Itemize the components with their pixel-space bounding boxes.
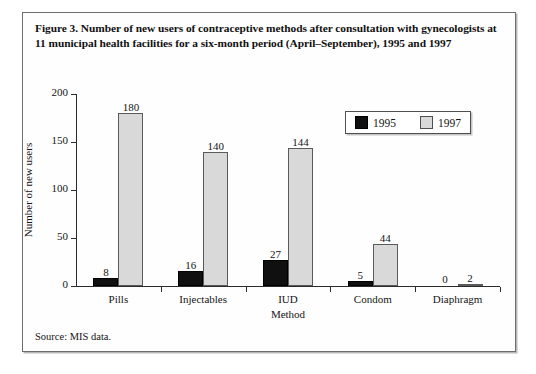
x-tick-mark <box>330 287 331 292</box>
figure-frame: Figure 3. Number of new users of contrac… <box>22 12 516 352</box>
legend-label: 1997 <box>438 117 461 129</box>
legend-label: 1995 <box>373 117 396 129</box>
bar-value-label: 5 <box>358 269 364 281</box>
bar-group-injectables: 16140Injectables <box>161 94 246 286</box>
legend-swatch-1995 <box>355 116 368 129</box>
bar-value-label: 8 <box>103 266 109 278</box>
x-tick-mark <box>161 287 162 292</box>
bar-value-label: 140 <box>207 140 224 152</box>
x-tick-mark <box>415 287 416 292</box>
figure-caption: Figure 3. Number of new users of contrac… <box>35 21 497 52</box>
y-axis-title: Number of new users <box>22 143 34 237</box>
y-tick-label: 100 <box>52 182 69 194</box>
legend-entry-1997[interactable]: 1997 <box>420 116 461 129</box>
x-category-label-pills: Pills <box>109 293 129 305</box>
bar-pills-1995[interactable]: 8 <box>93 278 118 286</box>
bar-injectables-1995[interactable]: 16 <box>178 271 203 286</box>
bar-group-iud: 27144IUD <box>246 94 331 286</box>
y-tick-label: 50 <box>57 230 68 242</box>
y-tick-label: 0 <box>63 278 69 290</box>
bar-value-label: 44 <box>380 232 391 244</box>
x-tick-mark <box>500 287 501 292</box>
x-axis-title: Method <box>271 308 305 320</box>
x-category-label-diaphragm: Diaphragm <box>433 293 482 305</box>
x-category-label-iud: IUD <box>278 293 298 305</box>
bar-value-label: 27 <box>270 248 281 260</box>
legend-entry-1995[interactable]: 1995 <box>355 116 396 129</box>
source-note: Source: MIS data. <box>35 331 111 342</box>
bar-pills-1997[interactable]: 180 <box>118 113 143 286</box>
bar-iud-1997[interactable]: 144 <box>288 148 313 286</box>
bar-value-label: 144 <box>292 136 309 148</box>
bar-group-pills: 8180Pills <box>76 94 161 286</box>
bar-value-label: 16 <box>185 259 196 271</box>
x-tick-mark <box>246 287 247 292</box>
legend-swatch-1997 <box>420 116 433 129</box>
bar-condom-1995[interactable]: 5 <box>348 281 373 286</box>
y-tick-label: 200 <box>52 86 69 98</box>
x-category-label-condom: Condom <box>354 293 392 305</box>
y-tick-label: 150 <box>52 134 69 146</box>
x-axis-line <box>76 286 500 287</box>
x-category-label-injectables: Injectables <box>179 293 227 305</box>
bar-value-label: 180 <box>123 101 140 113</box>
bar-value-label: 2 <box>467 272 473 284</box>
bar-injectables-1997[interactable]: 140 <box>203 152 228 286</box>
chart-legend: 19951997 <box>345 111 471 134</box>
bar-value-label: 0 <box>442 273 448 285</box>
bar-iud-1995[interactable]: 27 <box>263 260 288 286</box>
y-tick-mark <box>71 286 76 287</box>
bar-diaphragm-1997[interactable]: 2 <box>458 284 483 286</box>
bar-condom-1997[interactable]: 44 <box>373 244 398 286</box>
